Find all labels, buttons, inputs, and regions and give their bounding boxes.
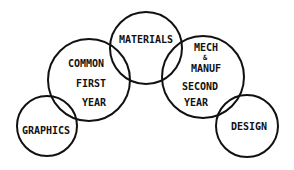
ampersand-label: & (203, 54, 208, 62)
node-mech-manuf-second-year: MECH & MANUF SECOND YEAR (162, 36, 244, 118)
materials-label: MATERIALS (119, 34, 173, 45)
node-materials: MATERIALS (110, 12, 182, 84)
node-design: DESIGN (216, 95, 278, 157)
second-label: SECOND (182, 81, 218, 92)
year-label: YEAR (82, 97, 107, 108)
mech-label: MECH (194, 42, 218, 53)
common-label: COMMON (68, 58, 104, 69)
graphics-label: GRAPHICS (22, 125, 70, 136)
node-graphics: GRAPHICS (17, 96, 77, 156)
materials-circle (110, 12, 182, 84)
manuf-label: MANUF (191, 63, 221, 74)
design-label: DESIGN (231, 121, 267, 132)
first-label: FIRST (76, 78, 106, 89)
course-diagram: GRAPHICS COMMON FIRST YEAR MATERIALS MEC… (0, 0, 294, 170)
second-year-label: YEAR (184, 97, 209, 108)
node-common-first-year: COMMON FIRST YEAR (48, 39, 130, 121)
